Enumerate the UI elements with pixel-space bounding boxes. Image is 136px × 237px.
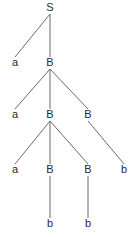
tree-node-b: B <box>46 108 53 120</box>
tree-node-b: b <box>85 217 91 229</box>
tree-node-a: a <box>12 56 19 68</box>
tree-edge-n2-n5 <box>50 69 88 109</box>
parse-tree: SaBaBBaBBbbb <box>0 0 136 237</box>
tree-edge-n5-n9 <box>88 121 124 164</box>
tree-node-b: B <box>46 163 53 175</box>
tree-edges <box>15 14 124 218</box>
tree-node-a: a <box>12 163 19 175</box>
tree-node-b: b <box>121 163 127 175</box>
tree-node-s: S <box>46 1 53 13</box>
tree-edge-n4-n8 <box>50 121 88 164</box>
tree-node-b: B <box>84 163 91 175</box>
tree-node-b: B <box>84 108 91 120</box>
tree-node-a: a <box>12 108 19 120</box>
tree-node-b: b <box>47 217 53 229</box>
tree-edge-n2-n3 <box>15 69 50 109</box>
tree-edge-n0-n1 <box>15 14 50 57</box>
tree-node-b: B <box>46 56 53 68</box>
tree-edge-n4-n6 <box>15 121 50 164</box>
tree-nodes: SaBaBBaBBbbb <box>12 1 127 229</box>
